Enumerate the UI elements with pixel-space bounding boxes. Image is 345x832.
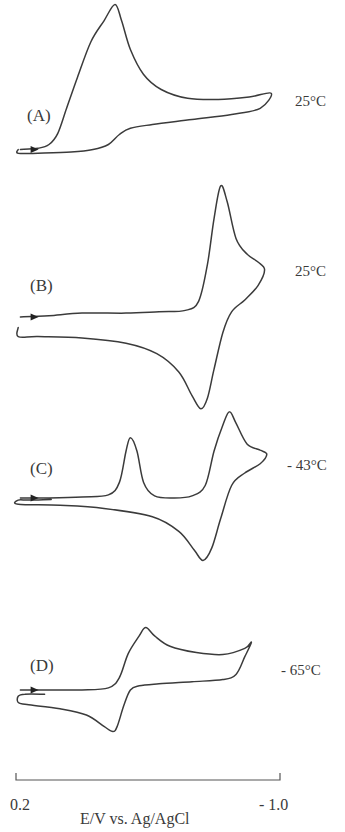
panel-label-b: (B) bbox=[30, 276, 53, 295]
panel-c: (C) - 43°C bbox=[15, 412, 327, 561]
trace-c bbox=[15, 412, 267, 561]
panel-d: (D) - 65°C bbox=[17, 628, 321, 732]
panel-b: (B) 25°C bbox=[17, 186, 326, 409]
x-axis: 0.2 - 1.0 E/V vs. Ag/AgCl bbox=[10, 773, 288, 828]
scan-direction-arrow-d bbox=[31, 687, 39, 694]
x-tick-label-end: - 1.0 bbox=[259, 796, 288, 813]
trace-b bbox=[17, 186, 265, 409]
panel-a: (A) 25°C bbox=[17, 5, 326, 154]
panel-label-a: (A) bbox=[27, 106, 51, 125]
temperature-label-c: - 43°C bbox=[287, 457, 327, 473]
scan-direction-arrow-b bbox=[31, 314, 39, 321]
x-axis-scale-bar bbox=[16, 773, 280, 780]
trace-d bbox=[17, 628, 251, 732]
x-tick-label-start: 0.2 bbox=[10, 796, 30, 813]
x-axis-title: E/V vs. Ag/AgCl bbox=[80, 810, 190, 828]
temperature-label-d: - 65°C bbox=[281, 662, 321, 678]
temperature-label-b: 25°C bbox=[295, 263, 326, 279]
trace-a bbox=[17, 5, 272, 154]
temperature-label-a: 25°C bbox=[295, 93, 326, 109]
cyclic-voltammogram-figure: (A) 25°C (B) 25°C (C) - 43°C (D) - 65°C … bbox=[0, 0, 345, 832]
panel-label-d: (D) bbox=[30, 656, 54, 675]
scan-direction-arrow-a bbox=[31, 146, 39, 153]
panel-label-c: (C) bbox=[30, 459, 53, 478]
